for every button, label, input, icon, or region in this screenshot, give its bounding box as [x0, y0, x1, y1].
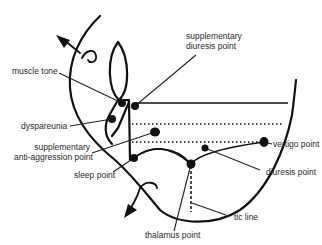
concha-curve [134, 142, 264, 164]
point-anti-aggression [150, 128, 160, 137]
label-supp-diuresis-line1: supplementary [186, 31, 242, 41]
leader-anti-aggression [92, 132, 155, 153]
lower-arrow-curl [140, 183, 157, 188]
point-thalamus [187, 160, 196, 169]
label-dyspareunia: dyspareunia [21, 121, 67, 131]
concha-curve-left [134, 149, 191, 164]
label-sleep-point: sleep point [74, 170, 115, 180]
point-dyspareunia [108, 115, 116, 123]
point-diuresis [202, 145, 209, 152]
helix-outline [70, 16, 296, 222]
fossa-oval [110, 42, 127, 100]
point-vertigo [260, 137, 269, 147]
leader-diuresis [205, 148, 260, 170]
label-tic-line: tic line [234, 212, 258, 222]
label-anti-aggression: supplementary anti-aggression point [14, 142, 90, 162]
leader-tic [192, 203, 226, 215]
upper-arrow-curl [82, 51, 96, 62]
label-supp-diuresis: supplementary diuresis point [186, 31, 242, 51]
label-diuresis-point: diuresis point [266, 167, 316, 177]
ear-diagram: supplementary diuresis point muscle tone… [0, 0, 322, 245]
point-muscle-tone [118, 99, 126, 107]
upper-arrowhead [56, 35, 70, 48]
antihelix-vertical [129, 101, 130, 160]
point-supp-diuresis [131, 102, 139, 110]
label-thalamus-point: thalamus point [145, 230, 200, 240]
label-anti-aggression-line2: anti-aggression point [14, 152, 90, 162]
label-supp-diuresis-line2: diuresis point [186, 41, 242, 51]
label-anti-aggression-line1: supplementary [14, 142, 90, 152]
lower-arrowhead [124, 204, 137, 218]
lower-arrow-shaft [132, 188, 140, 206]
leader-supp-diuresis [135, 55, 196, 106]
point-sleep [130, 154, 138, 162]
label-vertigo-point: vertigo point [273, 139, 319, 149]
label-muscle-tone: muscle tone [12, 66, 58, 76]
